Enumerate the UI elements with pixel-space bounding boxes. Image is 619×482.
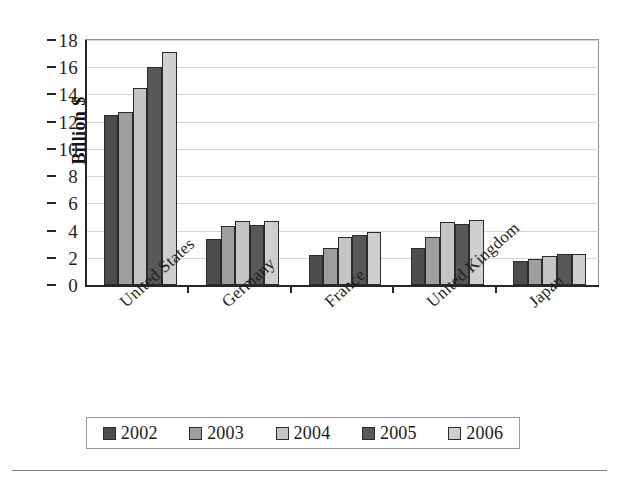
bar bbox=[513, 261, 528, 286]
bar bbox=[104, 115, 119, 285]
x-tick-mark bbox=[290, 285, 292, 293]
legend-label: 2005 bbox=[380, 423, 417, 444]
y-tick-mark bbox=[47, 39, 56, 41]
bar-group bbox=[411, 40, 484, 285]
legend-swatch-icon bbox=[362, 427, 375, 440]
x-tick-mark bbox=[187, 285, 189, 293]
bar bbox=[323, 248, 338, 285]
x-tick-mark bbox=[392, 285, 394, 293]
y-tick-mark bbox=[47, 257, 56, 259]
bar-group bbox=[104, 40, 177, 285]
legend-label: 2003 bbox=[207, 423, 244, 444]
bar-chart-figure: Billion $ 181614121086420 United StatesG… bbox=[0, 0, 619, 482]
legend-swatch-icon bbox=[189, 427, 202, 440]
legend-item[interactable]: 2004 bbox=[276, 423, 331, 444]
bar bbox=[118, 112, 133, 285]
bar-group bbox=[513, 40, 586, 285]
bar bbox=[206, 239, 221, 285]
chart-legend: 20022003200420052006 bbox=[86, 417, 520, 449]
y-tick-mark bbox=[47, 93, 56, 95]
y-tick-mark bbox=[47, 121, 56, 123]
bar bbox=[133, 88, 148, 285]
y-tick-mark bbox=[47, 202, 56, 204]
legend-swatch-icon bbox=[276, 427, 289, 440]
bar bbox=[221, 226, 236, 285]
legend-label: 2004 bbox=[294, 423, 331, 444]
bar bbox=[411, 248, 426, 285]
bar bbox=[528, 259, 543, 285]
y-axis-tick-labels: 181614121086420 bbox=[38, 40, 78, 285]
x-tick-mark bbox=[495, 285, 497, 293]
legend-item[interactable]: 2003 bbox=[189, 423, 244, 444]
y-tick-mark bbox=[47, 66, 56, 68]
legend-label: 2006 bbox=[466, 423, 503, 444]
legend-swatch-icon bbox=[448, 427, 461, 440]
legend-item[interactable]: 2006 bbox=[448, 423, 503, 444]
bar-group bbox=[309, 40, 382, 285]
y-tick-mark bbox=[47, 230, 56, 232]
y-tick-mark bbox=[47, 284, 56, 286]
legend-item[interactable]: 2005 bbox=[362, 423, 417, 444]
y-tick-mark bbox=[47, 148, 56, 150]
bar-group bbox=[206, 40, 279, 285]
bar bbox=[367, 232, 382, 285]
page-divider-rule bbox=[12, 470, 607, 471]
bar bbox=[147, 67, 162, 285]
plot-area bbox=[85, 40, 599, 287]
bar bbox=[572, 254, 587, 285]
bar bbox=[425, 237, 440, 285]
legend-item[interactable]: 2002 bbox=[103, 423, 158, 444]
legend-label: 2002 bbox=[121, 423, 158, 444]
y-tick-mark bbox=[47, 175, 56, 177]
bar bbox=[309, 255, 324, 285]
legend-swatch-icon bbox=[103, 427, 116, 440]
